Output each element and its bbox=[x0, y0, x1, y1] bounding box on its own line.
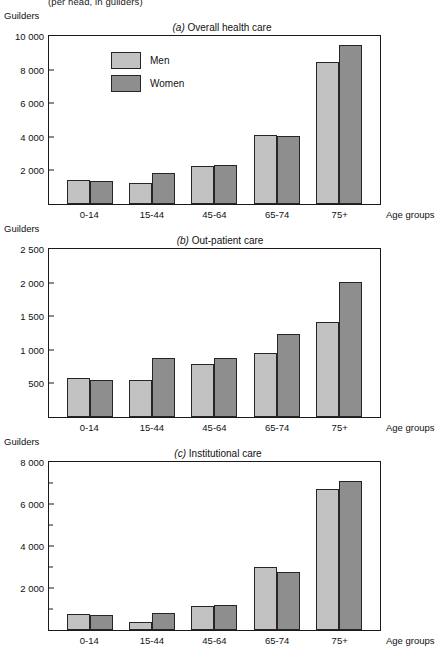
bar-group bbox=[129, 613, 175, 630]
x-tick-label: 75+ bbox=[317, 635, 363, 646]
y-minor-tick-mark bbox=[49, 567, 53, 568]
y-tick-label: 6 000 bbox=[3, 98, 49, 109]
y-tick-mark bbox=[49, 383, 54, 384]
y-tick-mark bbox=[49, 588, 54, 589]
y-tick-mark bbox=[49, 282, 54, 283]
y-tick-mark bbox=[49, 103, 54, 104]
bar-men-65-74 bbox=[254, 135, 277, 204]
y-tick-mark bbox=[49, 349, 54, 350]
y-tick-mark bbox=[49, 546, 54, 547]
bar-men-15-44 bbox=[129, 183, 152, 204]
bar-women-75+ bbox=[339, 45, 362, 204]
bar-women-65-74 bbox=[277, 572, 300, 630]
chart-title-text-b: Out-patient care bbox=[192, 235, 264, 246]
bar-men-75+ bbox=[316, 489, 339, 630]
x-axis-labels-a: 0-1415-4445-6465-7475+ bbox=[48, 209, 381, 220]
bar-women-45-64 bbox=[214, 605, 237, 630]
x-axis-title-b: Age groups bbox=[386, 422, 435, 433]
bar-group bbox=[191, 358, 237, 417]
bar-group-container-b bbox=[49, 249, 380, 417]
chart-title-a: (a) Overall health care bbox=[0, 22, 438, 33]
legend-label-men: Men bbox=[150, 55, 169, 66]
x-tick-label: 0-14 bbox=[66, 209, 112, 220]
legend-label-women: Women bbox=[150, 78, 184, 89]
y-tick-label: 1 000 bbox=[3, 344, 49, 355]
chart-panel-overall-health-care: Guilders (a) Overall health care Men Wom… bbox=[0, 10, 432, 222]
bar-women-15-44 bbox=[152, 358, 175, 417]
chart-tag-c: (c) bbox=[174, 448, 186, 459]
y-tick-label: 4 000 bbox=[3, 541, 49, 552]
bar-group bbox=[316, 45, 362, 204]
legend-a: Men Women bbox=[111, 52, 184, 98]
chart-tag-a: (a) bbox=[173, 22, 185, 33]
y-tick-mark bbox=[49, 136, 54, 137]
x-tick-label: 75+ bbox=[317, 422, 363, 433]
bar-men-0-14 bbox=[67, 180, 90, 204]
bar-group bbox=[67, 378, 113, 417]
x-axis-title-a: Age groups bbox=[386, 209, 435, 220]
y-tick-label: 6 000 bbox=[3, 499, 49, 510]
bar-men-45-64 bbox=[191, 364, 214, 417]
y-minor-tick-mark bbox=[49, 609, 53, 610]
y-tick-label: 500 bbox=[3, 378, 49, 389]
plot-area-b: 5001 0001 5002 0002 500 bbox=[48, 248, 381, 418]
y-minor-tick-mark bbox=[49, 483, 53, 484]
bar-women-0-14 bbox=[90, 380, 113, 417]
y-tick-mark bbox=[49, 170, 54, 171]
legend-swatch-women-icon bbox=[111, 75, 141, 92]
plot-area-c: 2 0004 0006 0008 000 bbox=[48, 461, 381, 631]
x-tick-label: 45-64 bbox=[191, 422, 237, 433]
bar-men-65-74 bbox=[254, 353, 277, 417]
x-tick-label: 15-44 bbox=[129, 422, 175, 433]
x-tick-label: 0-14 bbox=[66, 422, 112, 433]
chart-tag-b: (b) bbox=[177, 235, 189, 246]
y-tick-label: 8 000 bbox=[3, 457, 49, 468]
y-tick-label: 4 000 bbox=[3, 131, 49, 142]
x-tick-label: 65-74 bbox=[254, 635, 300, 646]
bar-men-75+ bbox=[316, 322, 339, 417]
x-tick-label: 45-64 bbox=[191, 209, 237, 220]
bar-women-65-74 bbox=[277, 136, 300, 204]
bar-group-container-c bbox=[49, 462, 380, 630]
x-tick-label: 65-74 bbox=[254, 209, 300, 220]
y-axis-title: Guilders bbox=[4, 223, 39, 234]
y-tick-label: 10 000 bbox=[3, 31, 49, 42]
chart-title-text-c: Institutional care bbox=[189, 448, 262, 459]
y-minor-tick-mark bbox=[49, 525, 53, 526]
bar-group bbox=[191, 605, 237, 630]
chart-title-c: (c) Institutional care bbox=[0, 448, 434, 459]
y-tick-label: 8 000 bbox=[3, 64, 49, 75]
x-tick-label: 65-74 bbox=[254, 422, 300, 433]
plot-area-a: Men Women 2 0004 0006 0008 00010 000 bbox=[48, 35, 381, 205]
bar-men-65-74 bbox=[254, 567, 277, 630]
legend-item-men: Men bbox=[111, 52, 184, 69]
chart-title-text-a: Overall health care bbox=[188, 22, 272, 33]
bar-men-45-64 bbox=[191, 166, 214, 204]
bar-group bbox=[129, 358, 175, 417]
bar-men-75+ bbox=[316, 62, 339, 204]
bar-men-15-44 bbox=[129, 380, 152, 417]
bar-women-15-44 bbox=[152, 173, 175, 204]
x-tick-label: 0-14 bbox=[66, 635, 112, 646]
y-axis-title: Guilders bbox=[4, 436, 39, 447]
x-tick-label: 45-64 bbox=[191, 635, 237, 646]
bar-women-45-64 bbox=[214, 358, 237, 417]
chart-panel-institutional-care: Guilders (c) Institutional care 2 0004 0… bbox=[0, 436, 432, 650]
bar-group bbox=[67, 614, 113, 630]
y-tick-label: 2 500 bbox=[3, 244, 49, 255]
bar-men-0-14 bbox=[67, 614, 90, 630]
x-tick-label: 15-44 bbox=[129, 209, 175, 220]
legend-item-women: Women bbox=[111, 75, 184, 92]
x-tick-label: 75+ bbox=[317, 209, 363, 220]
y-tick-mark bbox=[49, 69, 54, 70]
bar-women-75+ bbox=[339, 282, 362, 417]
x-axis-labels-c: 0-1415-4445-6465-7475+ bbox=[48, 635, 381, 646]
y-axis-title: Guilders bbox=[4, 10, 39, 21]
y-tick-mark bbox=[49, 316, 54, 317]
bar-women-0-14 bbox=[90, 181, 113, 204]
cut-off-header: (per head, in guilders) bbox=[48, 0, 143, 7]
bar-men-45-64 bbox=[191, 606, 214, 630]
chart-panel-out-patient-care: Guilders (b) Out-patient care 5001 0001 … bbox=[0, 223, 432, 435]
bar-group bbox=[129, 173, 175, 204]
bar-men-0-14 bbox=[67, 378, 90, 417]
